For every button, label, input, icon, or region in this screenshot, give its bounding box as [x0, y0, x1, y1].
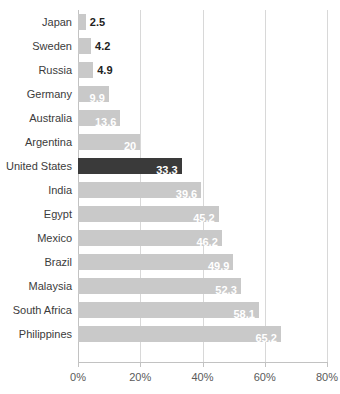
category-label: Egypt: [44, 202, 72, 226]
x-tick-label: 20%: [129, 371, 151, 383]
bar[interactable]: [78, 38, 91, 54]
bar-value-label: 13.6: [95, 114, 116, 130]
bar-value-label: 20: [124, 138, 136, 154]
bar-rows: Japan2.5Sweden4.2Russia4.9Germany9.9Aust…: [78, 10, 327, 362]
category-label: Malaysia: [29, 274, 72, 298]
category-label: Germany: [27, 82, 72, 106]
x-tick-label: 40%: [191, 371, 213, 383]
bar-row: Germany9.9: [78, 82, 327, 106]
bar[interactable]: 58.1: [78, 302, 259, 318]
bar-row: Russia4.9: [78, 58, 327, 82]
category-label: South Africa: [13, 298, 72, 322]
bar[interactable]: 13.6: [78, 110, 120, 126]
bar[interactable]: 33.3: [78, 158, 182, 174]
category-label: India: [48, 178, 72, 202]
category-label: Russia: [38, 58, 72, 82]
x-tick-label: 80%: [316, 371, 338, 383]
bar-value-label: 58.1: [233, 306, 254, 322]
bar-value-label: 4.9: [97, 62, 112, 78]
category-label: Sweden: [32, 34, 72, 58]
bar-row: Mexico46.2: [78, 226, 327, 250]
gridline-80%: [327, 10, 328, 362]
x-tick: [203, 362, 204, 367]
bar[interactable]: 65.2: [78, 326, 281, 342]
bar-row: South Africa58.1: [78, 298, 327, 322]
bar-row: Philippines65.2: [78, 322, 327, 346]
x-tick: [265, 362, 266, 367]
category-label: Australia: [29, 106, 72, 130]
category-label: Japan: [42, 10, 72, 34]
bar-value-label: 49.9: [208, 258, 229, 274]
x-tick: [140, 362, 141, 367]
x-tick: [327, 362, 328, 367]
bar-value-label: 9.9: [90, 90, 105, 106]
plot-area: Japan2.5Sweden4.2Russia4.9Germany9.9Aust…: [78, 10, 327, 362]
bar[interactable]: 49.9: [78, 254, 233, 270]
bar-row: Brazil49.9: [78, 250, 327, 274]
category-label: United States: [6, 154, 72, 178]
bar[interactable]: [78, 14, 86, 30]
bar[interactable]: [78, 62, 93, 78]
bar[interactable]: 45.2: [78, 206, 219, 222]
bar[interactable]: 39.6: [78, 182, 201, 198]
category-label: Argentina: [25, 130, 72, 154]
category-label: Brazil: [44, 250, 72, 274]
x-tick-label: 60%: [254, 371, 276, 383]
bar-value-label: 33.3: [156, 162, 177, 178]
bar-value-label: 39.6: [176, 186, 197, 202]
bar-row: India39.6: [78, 178, 327, 202]
bar[interactable]: 20: [78, 134, 140, 150]
bar-value-label: 4.2: [95, 38, 110, 54]
bar-row: Japan2.5: [78, 10, 327, 34]
bar[interactable]: 52.3: [78, 278, 241, 294]
bar-value-label: 52.3: [215, 282, 236, 298]
bar[interactable]: 9.9: [78, 86, 109, 102]
x-tick-label: 0%: [70, 371, 86, 383]
bar-row: United States33.3: [78, 154, 327, 178]
category-label: Philippines: [19, 322, 72, 346]
bar-row: Sweden4.2: [78, 34, 327, 58]
bar[interactable]: 46.2: [78, 230, 222, 246]
bar-row: Malaysia52.3: [78, 274, 327, 298]
bar-value-label: 46.2: [196, 234, 217, 250]
bar-value-label: 65.2: [256, 330, 277, 346]
bar-chart: Japan2.5Sweden4.2Russia4.9Germany9.9Aust…: [0, 0, 340, 394]
bar-row: Egypt45.2: [78, 202, 327, 226]
bar-row: Argentina20: [78, 130, 327, 154]
bar-value-label: 45.2: [193, 210, 214, 226]
bar-value-label: 2.5: [90, 14, 105, 30]
bar-row: Australia13.6: [78, 106, 327, 130]
category-label: Mexico: [37, 226, 72, 250]
x-tick: [78, 362, 79, 367]
